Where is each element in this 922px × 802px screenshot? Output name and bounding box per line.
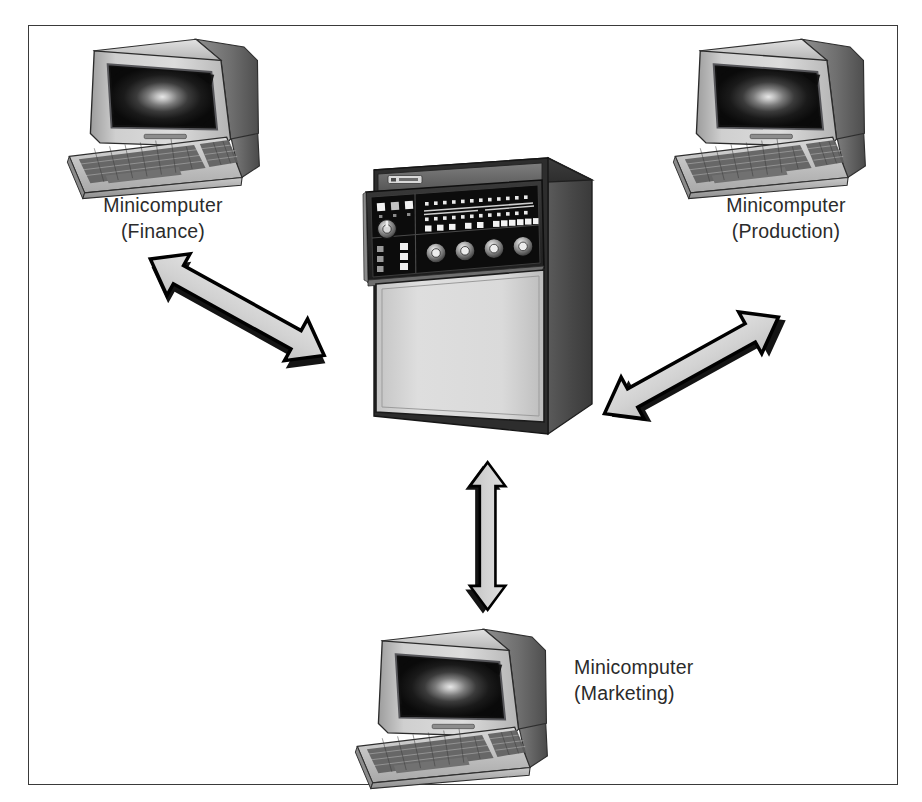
node-finance-terminal <box>67 39 259 198</box>
node-label-production: Minicomputer (Production) <box>680 192 892 244</box>
diagram-root: Minicomputer (Finance) Minicomputer (Pro… <box>0 0 922 802</box>
node-label-finance-line2: (Finance) <box>58 218 268 244</box>
connection-production-mainframe <box>593 294 797 440</box>
connection-marketing-mainframe <box>465 462 505 613</box>
node-marketing-terminal <box>355 629 547 788</box>
node-label-marketing-line1: Minicomputer <box>574 654 804 680</box>
node-label-finance-line1: Minicomputer <box>58 192 268 218</box>
connection-finance-mainframe <box>136 238 340 384</box>
node-label-production-line1: Minicomputer <box>680 192 892 218</box>
node-label-production-line2: (Production) <box>680 218 892 244</box>
node-production-terminal <box>673 39 865 198</box>
node-label-finance: Minicomputer (Finance) <box>58 192 268 244</box>
node-label-marketing: Minicomputer (Marketing) <box>574 654 804 706</box>
node-label-marketing-line2: (Marketing) <box>574 680 804 706</box>
node-central-mainframe <box>363 158 592 434</box>
